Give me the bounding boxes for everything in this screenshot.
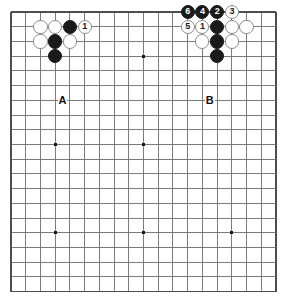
black-stone	[48, 34, 62, 48]
white-stone: 3	[225, 5, 239, 19]
stone-move-number: 1	[82, 22, 87, 31]
black-stone	[210, 34, 224, 48]
stone-move-number: 5	[185, 22, 190, 31]
white-stone: 1	[78, 20, 92, 34]
stone-move-number: 1	[200, 22, 205, 31]
white-stone	[225, 34, 239, 48]
star-point	[142, 231, 145, 234]
star-point	[142, 143, 145, 146]
stone-move-number: 3	[229, 7, 234, 16]
black-stone: 6	[181, 5, 195, 19]
white-stone	[239, 20, 253, 34]
black-stone	[210, 20, 224, 34]
star-point	[54, 143, 57, 146]
go-board-diagram: 1642351 AB	[0, 0, 287, 296]
white-stone	[33, 20, 47, 34]
white-stone	[48, 20, 62, 34]
black-stone	[63, 20, 77, 34]
star-point	[230, 231, 233, 234]
white-stone: 5	[181, 20, 195, 34]
stone-move-number: 2	[215, 7, 220, 16]
stone-move-number: 6	[185, 7, 190, 16]
stone-move-number: 4	[200, 7, 205, 16]
star-point	[142, 55, 145, 58]
white-stone	[225, 20, 239, 34]
white-stone	[195, 34, 209, 48]
star-point	[54, 231, 57, 234]
white-stone	[63, 34, 77, 48]
white-stone	[33, 34, 47, 48]
board-marker-a: A	[58, 95, 68, 106]
board-marker-b: B	[205, 95, 215, 106]
